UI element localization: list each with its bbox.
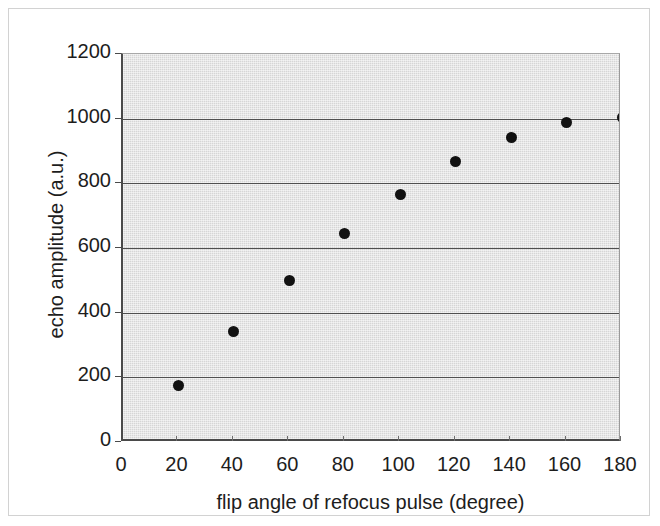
y-tick-mark xyxy=(115,182,121,183)
data-point xyxy=(617,112,621,123)
data-point xyxy=(284,275,295,286)
x-tick-mark xyxy=(454,436,455,441)
gridline xyxy=(123,119,619,120)
gridline xyxy=(123,248,619,249)
data-point xyxy=(339,228,350,239)
gridline xyxy=(123,377,619,378)
x-tick-label: 160 xyxy=(535,453,595,476)
x-tick-label: 120 xyxy=(424,453,484,476)
y-tick-mark xyxy=(115,441,121,442)
y-tick-label: 0 xyxy=(15,428,111,451)
figure-frame: 020040060080010001200 020406080100120140… xyxy=(8,8,650,516)
x-tick-label: 40 xyxy=(202,453,262,476)
y-tick-mark xyxy=(115,118,121,119)
data-point xyxy=(561,117,572,128)
x-tick-mark xyxy=(509,436,510,441)
x-tick-label: 60 xyxy=(257,453,317,476)
x-tick-mark xyxy=(343,436,344,441)
plot-area xyxy=(121,53,620,441)
x-tick-mark xyxy=(176,436,177,441)
x-tick-mark xyxy=(620,436,621,441)
y-tick-label: 1200 xyxy=(15,40,111,63)
data-point xyxy=(450,156,461,167)
y-tick-mark xyxy=(115,312,121,313)
data-point xyxy=(173,380,184,391)
plot-background-texture xyxy=(123,54,619,439)
figure-page: 020040060080010001200 020406080100120140… xyxy=(0,0,660,526)
y-tick-mark xyxy=(115,53,121,54)
data-point xyxy=(228,326,239,337)
x-tick-label: 180 xyxy=(590,453,650,476)
data-point xyxy=(395,189,406,200)
x-tick-label: 140 xyxy=(479,453,539,476)
x-axis-title: flip angle of refocus pulse (degree) xyxy=(121,491,620,514)
gridline xyxy=(123,183,619,184)
y-tick-mark xyxy=(115,247,121,248)
x-tick-mark xyxy=(565,436,566,441)
gridline xyxy=(123,313,619,314)
y-axis-title: echo amplitude (a.u.) xyxy=(45,80,68,410)
x-tick-mark xyxy=(398,436,399,441)
x-tick-label: 0 xyxy=(91,453,151,476)
x-tick-mark xyxy=(232,436,233,441)
y-tick-mark xyxy=(115,376,121,377)
x-tick-mark xyxy=(287,436,288,441)
data-point xyxy=(506,132,517,143)
x-tick-label: 80 xyxy=(313,453,373,476)
x-tick-label: 100 xyxy=(368,453,428,476)
x-tick-label: 20 xyxy=(146,453,206,476)
